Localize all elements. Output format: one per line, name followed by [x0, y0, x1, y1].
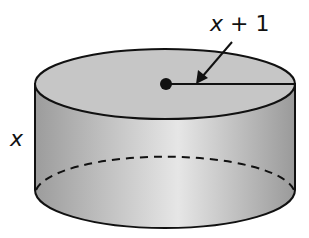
center-point	[160, 78, 172, 90]
height-label: x	[9, 126, 24, 151]
radius-label: x + 1	[209, 11, 269, 36]
cylinder-diagram: x + 1 x	[0, 0, 309, 238]
